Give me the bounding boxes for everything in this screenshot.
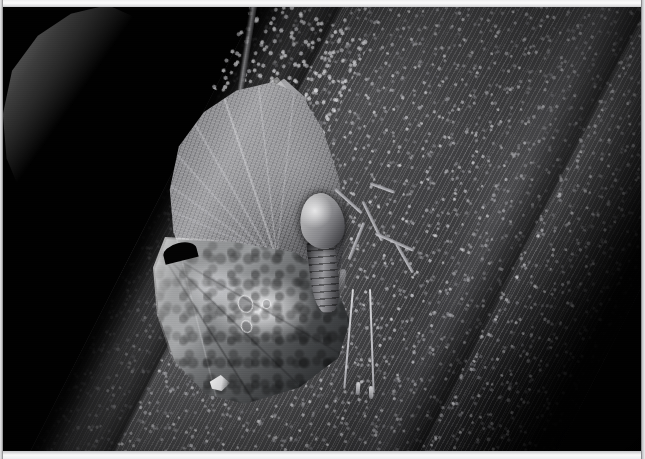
photo-border-right: [641, 0, 645, 459]
antenna-right: [369, 289, 375, 393]
antenna-club-right: [369, 386, 373, 399]
butterfly: [3, 7, 641, 451]
butterfly-leg: [370, 182, 395, 193]
forewing-edge-highlight: [3, 7, 185, 224]
palps: [338, 269, 347, 295]
photo-border-bottom: [0, 451, 645, 459]
photo-border-top: [0, 0, 645, 7]
butterfly-leg: [375, 232, 414, 251]
photo-canvas: [3, 7, 641, 451]
antenna-club-left: [356, 382, 361, 395]
butterfly-leg: [348, 222, 366, 260]
eyespot-marking: [262, 299, 271, 309]
photograph-frame: Leaf-mimic butterfly resting on a tree t…: [0, 0, 645, 459]
